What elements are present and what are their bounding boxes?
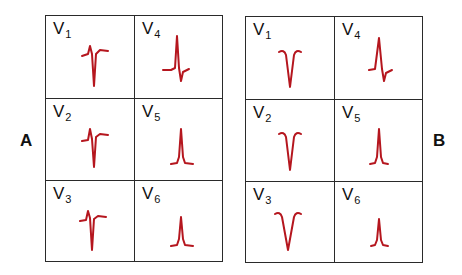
panel-label-a: A	[20, 131, 32, 151]
lead-cell-a-v3: V3	[46, 181, 134, 261]
ecg-waveform	[246, 182, 334, 262]
ecg-waveform	[46, 16, 134, 98]
ecg-waveform	[246, 100, 334, 181]
ecg-waveform	[135, 181, 223, 261]
lead-cell-a-v5: V5	[135, 99, 223, 180]
panel-label-b: B	[433, 131, 445, 151]
lead-cell-b-v3: V3	[246, 182, 334, 262]
ecg-waveform	[135, 16, 223, 98]
lead-cell-a-v4: V4	[135, 16, 223, 98]
lead-cell-b-v1: V1	[246, 17, 334, 99]
ecg-waveform	[335, 182, 423, 262]
lead-cell-b-v5: V5	[335, 100, 423, 181]
lead-cell-a-v2: V2	[46, 99, 134, 180]
lead-cell-b-v6: V6	[335, 182, 423, 262]
lead-cell-a-v1: V1	[46, 16, 134, 98]
ecg-panel-a: V1 V4 V2 V5 V3 V6	[45, 15, 223, 262]
ecg-waveform	[135, 99, 223, 180]
lead-cell-a-v6: V6	[135, 181, 223, 261]
lead-cell-b-v4: V4	[335, 17, 423, 99]
ecg-waveform	[46, 99, 134, 180]
ecg-waveform	[246, 17, 334, 99]
ecg-panel-b: V1 V4 V2 V5 V3 V6	[245, 16, 423, 263]
lead-cell-b-v2: V2	[246, 100, 334, 181]
ecg-waveform	[335, 100, 423, 181]
ecg-waveform	[335, 17, 423, 99]
ecg-waveform	[46, 181, 134, 261]
